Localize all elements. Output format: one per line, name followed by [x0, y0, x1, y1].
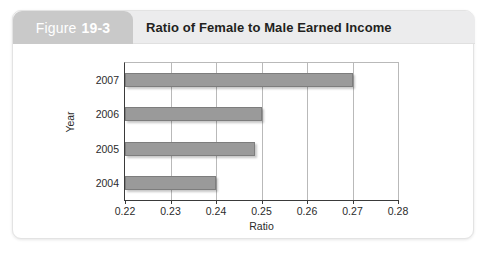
x-axis-tick-label: 0.27	[342, 205, 362, 217]
x-axis-tick	[171, 200, 172, 204]
plot-area: 2007200620052004 0.220.230.240.250.260.2…	[124, 62, 399, 201]
x-axis-tick-label: 0.28	[388, 205, 408, 217]
x-axis-title: Ratio	[124, 220, 399, 232]
x-axis-tick	[216, 200, 217, 204]
gridline	[353, 63, 354, 200]
x-axis-tick-label: 0.24	[206, 205, 226, 217]
figure-header: Figure 19-3 Ratio of Female to Male Earn…	[13, 11, 475, 44]
figure-tab-word: Figure	[36, 20, 77, 36]
x-axis-tick-label: 0.23	[160, 205, 180, 217]
y-axis-tick-label: 2007	[96, 74, 119, 86]
x-axis-tick	[353, 200, 354, 204]
x-axis-tick	[398, 200, 399, 204]
bar	[125, 107, 262, 121]
x-axis-tick-label: 0.22	[115, 205, 135, 217]
figure-title: Ratio of Female to Male Earned Income	[146, 11, 392, 44]
figure-number-tab: Figure 19-3	[13, 11, 133, 44]
y-axis-tick-label: 2006	[96, 108, 119, 120]
y-axis-tick-label: 2004	[96, 177, 119, 189]
y-axis-title: Year	[64, 111, 76, 132]
bar	[125, 73, 353, 87]
x-axis-tick-label: 0.25	[251, 205, 271, 217]
x-axis-tick	[262, 200, 263, 204]
figure-tab-number: 19-3	[82, 20, 111, 36]
x-axis-tick-label: 0.26	[297, 205, 317, 217]
gridline	[398, 63, 399, 200]
figure-card: Figure 19-3 Ratio of Female to Male Earn…	[12, 10, 474, 239]
x-axis-tick	[307, 200, 308, 204]
bar	[125, 142, 255, 156]
bar	[125, 176, 216, 190]
chart-body: 2007200620052004 0.220.230.240.250.260.2…	[13, 44, 475, 239]
x-axis-tick	[125, 200, 126, 204]
y-axis-tick-label: 2005	[96, 143, 119, 155]
